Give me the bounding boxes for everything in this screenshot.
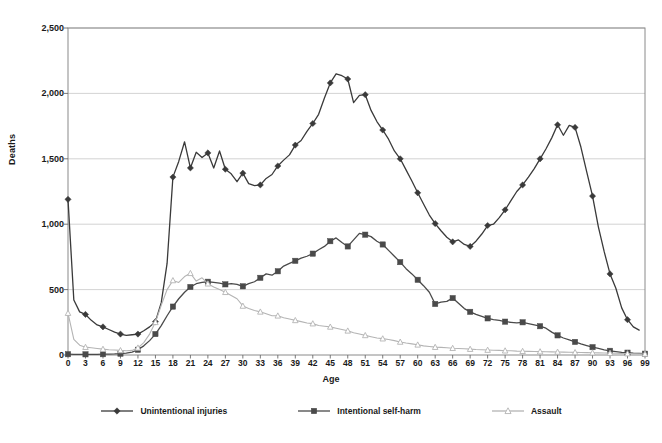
y-tick-label: 0 <box>20 350 64 360</box>
series-line <box>68 273 645 354</box>
data-point-square <box>485 316 490 321</box>
data-point-square <box>502 319 507 324</box>
legend-item[interactable]: Intentional self-harm <box>297 405 421 417</box>
data-point-square <box>312 408 317 413</box>
data-point-diamond <box>345 76 351 82</box>
x-tick-label: 66 <box>448 358 457 368</box>
x-tick-label: 30 <box>238 358 247 368</box>
x-tick-label: 81 <box>535 358 544 368</box>
data-point-triangle <box>188 270 194 275</box>
legend-marker-triangle-icon <box>491 405 525 417</box>
data-point-square <box>240 284 245 289</box>
x-tick-label: 18 <box>168 358 177 368</box>
data-point-diamond <box>415 190 421 196</box>
data-point-diamond <box>327 80 333 86</box>
x-tick-label: 84 <box>553 358 562 368</box>
data-point-square <box>380 242 385 247</box>
x-tick-label: 93 <box>605 358 614 368</box>
data-point-square <box>468 309 473 314</box>
data-point-square <box>100 352 105 357</box>
y-tick-label: 1,000 <box>20 219 64 229</box>
data-point-square <box>415 277 420 282</box>
data-point-square <box>310 251 315 256</box>
data-point-diamond <box>607 271 613 277</box>
data-point-square <box>223 282 228 287</box>
data-point-square <box>188 284 193 289</box>
x-tick-label: 45 <box>326 358 335 368</box>
x-tick-label: 96 <box>623 358 632 368</box>
data-point-square <box>170 304 175 309</box>
y-tick-label: 2,000 <box>20 88 64 98</box>
y-tick-label: 500 <box>20 285 64 295</box>
data-point-diamond <box>187 165 193 171</box>
data-point-diamond <box>170 174 176 180</box>
x-tick-label: 63 <box>430 358 439 368</box>
data-point-square <box>572 339 577 344</box>
data-point-triangle <box>170 278 176 283</box>
x-tick-label: 3 <box>83 358 88 368</box>
x-tick-label: 39 <box>291 358 300 368</box>
x-tick-label: 75 <box>500 358 509 368</box>
data-point-diamond <box>554 122 560 128</box>
x-tick-label: 36 <box>273 358 282 368</box>
x-tick-label: 24 <box>203 358 212 368</box>
x-tick-label: 60 <box>413 358 422 368</box>
series-line <box>68 74 639 336</box>
data-point-square <box>83 352 88 357</box>
data-point-diamond <box>100 324 106 330</box>
line-chart: Deaths 05001,0001,5002,0002,500 03691215… <box>0 0 662 443</box>
data-point-square <box>65 352 70 357</box>
series-intentional-self-harm <box>65 232 647 357</box>
data-point-square <box>537 324 542 329</box>
data-point-square <box>398 259 403 264</box>
y-tick-label: 2,500 <box>20 23 64 33</box>
data-point-diamond <box>589 193 595 199</box>
legend-marker-diamond-icon <box>100 405 134 417</box>
x-tick-label: 99 <box>640 358 649 368</box>
series-unintentional-injuries <box>65 74 639 337</box>
x-tick-label: 69 <box>465 358 474 368</box>
x-tick-label: 78 <box>518 358 527 368</box>
x-tick-label: 51 <box>361 358 370 368</box>
data-point-square <box>293 258 298 263</box>
data-point-diamond <box>135 331 141 337</box>
x-tick-label: 21 <box>186 358 195 368</box>
legend-label: Intentional self-harm <box>337 406 421 416</box>
data-point-square <box>275 269 280 274</box>
series-assault <box>65 270 648 356</box>
data-point-square <box>433 301 438 306</box>
chart-legend: Unintentional injuriesIntentional self-h… <box>0 405 662 417</box>
data-point-square <box>520 320 525 325</box>
x-tick-label: 54 <box>378 358 387 368</box>
legend-label: Assault <box>531 406 562 416</box>
data-point-diamond <box>362 92 368 98</box>
data-point-diamond <box>117 331 123 337</box>
x-tick-label: 12 <box>133 358 142 368</box>
data-point-square <box>153 331 158 336</box>
data-point-square <box>363 232 368 237</box>
x-tick-label: 6 <box>101 358 106 368</box>
x-tick-label: 87 <box>570 358 579 368</box>
x-tick-label: 42 <box>308 358 317 368</box>
plot-frame <box>68 28 645 355</box>
x-tick-label: 33 <box>256 358 265 368</box>
data-point-triangle <box>65 310 71 315</box>
x-tick-label: 72 <box>483 358 492 368</box>
x-tick-label: 9 <box>118 358 123 368</box>
data-point-square <box>345 244 350 249</box>
data-point-diamond <box>537 156 543 162</box>
x-axis-title: Age <box>0 374 662 384</box>
x-tick-label: 48 <box>343 358 352 368</box>
y-tick-label: 1,500 <box>20 154 64 164</box>
legend-label: Unintentional injuries <box>140 406 227 416</box>
legend-item[interactable]: Assault <box>491 405 562 417</box>
data-point-square <box>258 275 263 280</box>
data-point-diamond <box>114 408 120 414</box>
x-tick-label: 90 <box>588 358 597 368</box>
legend-item[interactable]: Unintentional injuries <box>100 405 227 417</box>
data-point-diamond <box>65 196 71 202</box>
data-point-diamond <box>572 124 578 130</box>
x-tick-label: 15 <box>151 358 160 368</box>
x-tick-label: 57 <box>395 358 404 368</box>
x-tick-label: 27 <box>221 358 230 368</box>
